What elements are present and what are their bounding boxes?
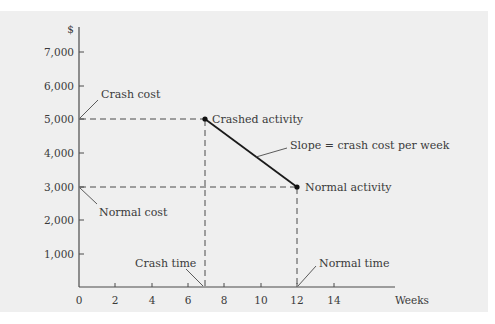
x-tick-12: 12 [290,294,303,306]
x-tick-0: 0 [76,294,83,306]
x-tick-labels: 0 2 4 6 8 10 12 14 [76,294,341,306]
y-tick-3000: 3,000 [44,181,74,193]
y-tick-1000: 1,000 [44,248,74,260]
x-tick-4: 4 [149,294,156,306]
x-tick-8: 8 [221,294,228,306]
y-ticks [79,52,84,254]
x-tick-2: 2 [112,294,119,306]
cost-time-chart: $ 7,000 6,000 5,000 4,000 3,000 2,000 1,… [0,0,495,324]
y-tick-4000: 4,000 [44,147,74,159]
y-tick-labels: $ 7,000 6,000 5,000 4,000 3,000 2,000 1,… [44,23,74,260]
crash-time-label: Crash time [135,257,196,270]
normal-activity-point [294,184,299,189]
y-tick-7000: 7,000 [44,46,74,58]
cost-slope-line [205,119,297,187]
y-unit-label: $ [67,23,74,35]
x-axis-label: Weeks [395,294,429,306]
normal-activity-label: Normal activity [305,181,392,194]
normal-time-leader [298,266,316,286]
y-tick-2000: 2,000 [44,214,74,226]
leader-lines [80,100,316,286]
crash-cost-label: Crash cost [101,88,161,101]
crashed-activity-point [202,116,207,121]
x-tick-6: 6 [185,294,192,306]
normal-cost-label: Normal cost [99,206,168,219]
x-tick-10: 10 [254,294,267,306]
x-tick-14: 14 [327,294,341,306]
crashed-activity-label: Crashed activity [212,113,304,126]
slope-label: Slope = crash cost per week [290,139,450,152]
crash-cost-leader [80,100,98,118]
y-tick-6000: 6,000 [44,80,74,92]
crash-time-leader [186,269,203,286]
normal-time-label: Normal time [319,257,389,270]
y-tick-5000: 5,000 [44,113,74,125]
slope-leader [256,148,287,157]
normal-cost-leader [80,188,97,204]
